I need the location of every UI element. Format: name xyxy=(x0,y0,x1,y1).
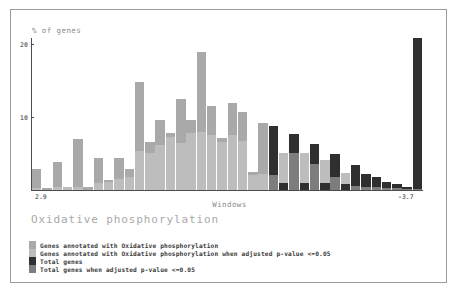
bar-total-genes xyxy=(413,38,422,190)
y-axis-title: % of genes xyxy=(32,26,81,35)
bar-total-genes xyxy=(166,137,175,190)
legend-item-total-genes-significant: Total genes when adjusted p-value <=0.05 xyxy=(29,265,429,273)
bar-total-genes xyxy=(186,133,195,190)
bar-group xyxy=(42,38,51,190)
bar-group xyxy=(361,38,370,190)
bar-total-genes xyxy=(32,188,41,190)
legend-label: Total genes when adjusted p-value <=0.05 xyxy=(40,266,195,273)
bar-genes-annotated xyxy=(361,187,370,190)
bar-genes-annotated xyxy=(372,187,381,190)
bar-group xyxy=(248,38,257,190)
legend-item-total-genes: Total genes xyxy=(29,257,429,265)
bar-group xyxy=(372,38,381,190)
bar-group xyxy=(73,38,82,190)
bar-group xyxy=(289,38,298,190)
bar-group xyxy=(176,38,185,190)
bar-group xyxy=(135,38,144,190)
bar-group xyxy=(392,38,401,190)
x-axis-title: Windows xyxy=(11,200,448,209)
bar-total-genes xyxy=(145,153,154,190)
bar-genes-annotated xyxy=(42,188,51,190)
legend-swatch-total-genes xyxy=(29,257,36,265)
figure-panel: % of genes 20 10 2.9 -3.7 Windows Oxidat… xyxy=(10,9,447,283)
bar-genes-annotated xyxy=(32,169,41,190)
bar-total-genes xyxy=(300,183,309,190)
legend-label: Total genes xyxy=(40,258,83,265)
bar-group xyxy=(351,38,360,190)
legend-item-genes-annotated-significant: Genes annotated with Oxidative phosphory… xyxy=(29,249,429,257)
chart-caption: Oxidative phosphorylation xyxy=(31,213,219,226)
histogram-bars xyxy=(32,38,423,190)
bar-total-genes xyxy=(125,177,134,190)
y-tick-label-10: 10 xyxy=(20,114,28,122)
bar-genes-annotated xyxy=(351,186,360,190)
bar-total-genes xyxy=(217,142,226,190)
bar-group xyxy=(125,38,134,190)
bar-group xyxy=(155,38,164,190)
bar-total-genes xyxy=(258,174,267,190)
bar-group xyxy=(228,38,237,190)
x-axis-line xyxy=(31,190,423,191)
bar-group xyxy=(53,38,62,190)
bar-group xyxy=(63,38,72,190)
bar-group xyxy=(114,38,123,190)
bar-total-genes xyxy=(155,145,164,190)
bar-genes-annotated xyxy=(53,162,62,190)
bar-group xyxy=(104,38,113,190)
legend-swatch-genes-annotated-significant xyxy=(29,249,36,257)
bar-total-genes xyxy=(135,151,144,190)
bar-genes-annotated xyxy=(310,164,319,190)
bar-total-genes xyxy=(279,183,288,190)
bar-group xyxy=(83,38,92,190)
bar-total-genes xyxy=(176,143,185,190)
bar-genes-annotated xyxy=(83,187,92,190)
bar-genes-annotated xyxy=(330,177,339,190)
bar-group xyxy=(341,38,350,190)
bar-group xyxy=(330,38,339,190)
bar-total-genes xyxy=(104,182,113,190)
bar-group xyxy=(300,38,309,190)
bar-total-genes xyxy=(94,183,103,190)
bar-genes-annotated xyxy=(413,189,422,190)
bar-group xyxy=(258,38,267,190)
bar-group xyxy=(207,38,216,190)
bar-total-genes xyxy=(197,132,206,190)
bar-genes-annotated xyxy=(289,153,298,190)
bar-total-genes xyxy=(207,135,216,190)
bar-group xyxy=(279,38,288,190)
bar-total-genes xyxy=(238,141,247,190)
bar-total-genes xyxy=(73,187,82,190)
bar-genes-annotated xyxy=(269,175,278,190)
bar-group xyxy=(310,38,319,190)
legend-swatch-genes-annotated xyxy=(29,241,36,249)
bar-total-genes xyxy=(53,187,62,190)
bar-group xyxy=(94,38,103,190)
bar-group xyxy=(166,38,175,190)
bar-genes-annotated xyxy=(73,139,82,190)
bar-group xyxy=(402,38,411,190)
bar-total-genes xyxy=(320,183,329,190)
bar-total-genes xyxy=(341,184,350,190)
bar-group xyxy=(32,38,41,190)
bar-group xyxy=(382,38,391,190)
bar-group xyxy=(413,38,422,190)
bar-total-genes xyxy=(63,187,72,190)
bar-genes-annotated xyxy=(392,188,401,190)
legend: Genes annotated with Oxidative phosphory… xyxy=(29,241,429,273)
bar-group xyxy=(197,38,206,190)
bar-total-genes xyxy=(248,175,257,190)
legend-label: Genes annotated with Oxidative phosphory… xyxy=(40,250,331,257)
bar-group xyxy=(269,38,278,190)
bar-group xyxy=(145,38,154,190)
bar-genes-annotated xyxy=(402,189,411,190)
y-tick-label-20: 20 xyxy=(20,41,28,49)
legend-item-genes-annotated: Genes annotated with Oxidative phosphory… xyxy=(29,241,429,249)
bar-total-genes xyxy=(114,179,123,190)
bar-genes-annotated xyxy=(382,188,391,190)
bar-group xyxy=(320,38,329,190)
legend-swatch-total-genes-significant xyxy=(29,265,36,273)
bar-group xyxy=(186,38,195,190)
legend-label: Genes annotated with Oxidative phosphory… xyxy=(40,242,218,249)
bar-group xyxy=(238,38,247,190)
bar-group xyxy=(217,38,226,190)
